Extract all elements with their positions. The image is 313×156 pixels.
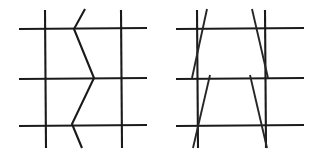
left-horizontal-top — [19, 28, 147, 29]
left-horizontal-bottom — [19, 125, 147, 126]
right-horizontal-middle — [176, 78, 304, 79]
right-horizontal-top — [176, 28, 304, 29]
right-horizontal-bottom — [176, 125, 304, 126]
left-horizontal-middle — [19, 78, 147, 79]
line-figure-canvas — [0, 0, 313, 156]
figure-container — [0, 0, 313, 156]
